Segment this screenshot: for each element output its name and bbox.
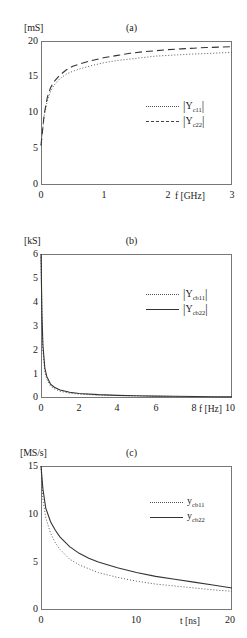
curves-c xyxy=(0,425,247,638)
legend-label-a-1: |Yc22| xyxy=(183,115,204,129)
legend-label-b-0: |Ycb11| xyxy=(183,288,207,302)
curves-a xyxy=(0,0,247,213)
legend-item-b-1: |Ycb22| xyxy=(146,302,208,317)
legend-item-a-1: |Yc22| xyxy=(146,114,204,129)
legend-swatch-dotted-icon xyxy=(150,502,183,503)
series-|Ycb22| xyxy=(41,254,232,397)
legend-a: |Yc11| |Yc22| xyxy=(146,99,204,129)
chart-panel-a: [mS] (a) 20 15 10 5 0 0 1 2 3 f [GHz] |Y… xyxy=(0,0,247,213)
legend-swatch-dotted-icon xyxy=(146,294,179,295)
series-|Yc22| xyxy=(41,47,232,146)
legend-item-c-1: ycb22 xyxy=(150,510,205,525)
legend-label-c-0: ycb11 xyxy=(187,496,204,509)
legend-label-c-1: ycb22 xyxy=(187,511,205,524)
series-|Ycb11| xyxy=(41,254,232,397)
chart-panel-b: [kS] (b) 6 5 4 3 2 1 0 0 2 4 6 8 10 f [H… xyxy=(0,213,247,426)
legend-swatch-solid-icon xyxy=(150,517,183,518)
figure-container: [mS] (a) 20 15 10 5 0 0 1 2 3 f [GHz] |Y… xyxy=(0,0,247,638)
legend-swatch-dotted-icon xyxy=(146,106,179,107)
chart-panel-c: [MS/s] (c) 15 10 5 0 0 10 20 t [ns] ycb1… xyxy=(0,425,247,638)
legend-item-b-0: |Ycb11| xyxy=(146,287,208,302)
legend-b: |Ycb11| |Ycb22| xyxy=(146,287,208,317)
legend-swatch-solid-icon xyxy=(146,309,179,310)
curves-b xyxy=(0,213,247,426)
legend-item-a-0: |Yc11| xyxy=(146,99,204,114)
legend-label-a-0: |Yc11| xyxy=(183,100,204,114)
legend-c: ycb11 ycb22 xyxy=(150,495,205,525)
legend-label-b-1: |Ycb22| xyxy=(183,303,208,317)
legend-item-c-0: ycb11 xyxy=(150,495,205,510)
series-ycb22 xyxy=(41,466,232,588)
legend-swatch-dashed-icon xyxy=(146,121,179,122)
